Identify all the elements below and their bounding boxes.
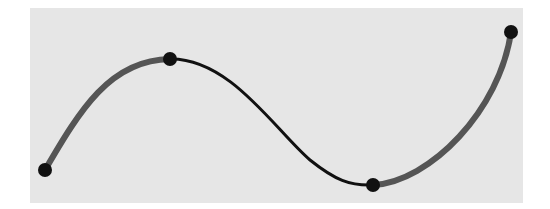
background-panel: [30, 8, 523, 203]
curve-diagram: [0, 0, 550, 209]
anchor-point-2[interactable]: [163, 52, 177, 66]
anchor-point-1[interactable]: [38, 163, 52, 177]
anchor-point-3[interactable]: [366, 178, 380, 192]
anchor-point-4[interactable]: [504, 25, 518, 39]
diagram-stage: [0, 0, 550, 209]
